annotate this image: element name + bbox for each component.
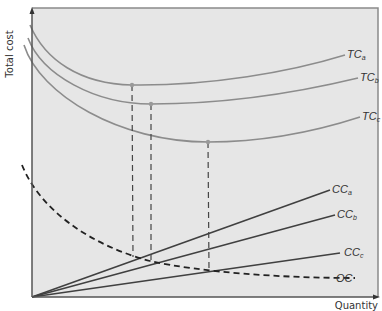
x-axis-title: Quantity	[335, 300, 378, 311]
total-cost-chart: Total cost Quantity TCa TCb TCc CCa CCb …	[0, 0, 382, 311]
y-axis-title: Total cost	[4, 30, 15, 78]
tc-a-minimum-dot	[130, 83, 134, 87]
plot-area	[32, 8, 378, 297]
tc-c-minimum-dot	[206, 140, 210, 144]
tc-b-minimum-dot	[149, 102, 153, 106]
oc-label: OC	[336, 272, 353, 284]
